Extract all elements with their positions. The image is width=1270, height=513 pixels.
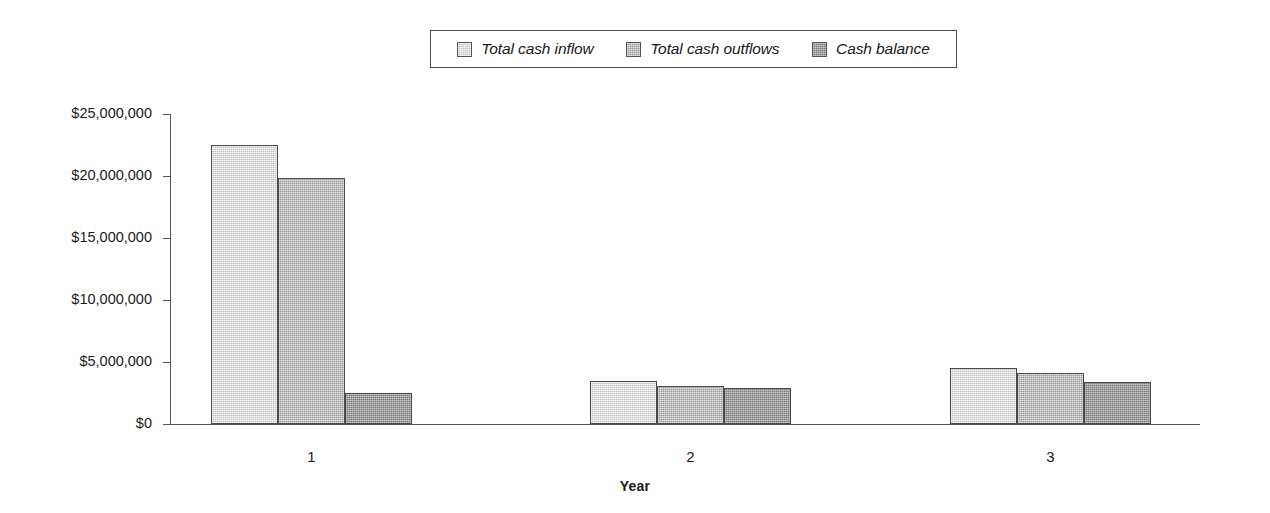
bar-1-series-0 xyxy=(211,145,278,424)
bar-3-series-0 xyxy=(950,368,1017,424)
chart-legend: Total cash inflow Total cash outflows Ca… xyxy=(430,30,957,68)
y-axis-tick-label: $20,000,000 xyxy=(71,167,152,183)
bar-2-series-2 xyxy=(724,388,791,424)
y-axis-tick: $25,000,000 xyxy=(163,114,170,115)
legend-swatch-icon xyxy=(626,42,641,57)
x-axis-line xyxy=(170,424,1200,425)
y-axis-tick-label: $10,000,000 xyxy=(71,291,152,307)
bar-3-series-2 xyxy=(1084,382,1151,424)
bar-chart: Total cash inflow Total cash outflows Ca… xyxy=(0,0,1270,513)
legend-item-total-cash-inflow: Total cash inflow xyxy=(457,40,593,58)
bar-1-series-2 xyxy=(345,393,412,424)
legend-label: Total cash outflows xyxy=(650,40,779,58)
legend-swatch-icon xyxy=(812,42,827,57)
bar-3-series-1 xyxy=(1017,373,1084,424)
bar-1-series-1 xyxy=(278,178,345,424)
x-axis-category-label: 2 xyxy=(686,448,694,465)
y-axis-tick-label: $25,000,000 xyxy=(71,105,152,121)
y-axis-tick: $10,000,000 xyxy=(163,300,170,301)
y-axis-tick: $15,000,000 xyxy=(163,238,170,239)
x-axis-category-label: 3 xyxy=(1046,448,1054,465)
bar-2-series-0 xyxy=(590,381,657,424)
y-axis-tick-label: $0 xyxy=(136,415,152,431)
x-axis-category-label: 1 xyxy=(307,448,315,465)
legend-item-cash-balance: Cash balance xyxy=(812,40,930,58)
x-axis-title: Year xyxy=(0,478,1270,494)
y-axis-line xyxy=(170,114,171,425)
legend-swatch-icon xyxy=(457,42,472,57)
legend-label: Total cash inflow xyxy=(481,40,593,58)
legend-label: Cash balance xyxy=(836,40,930,58)
y-axis-tick: $20,000,000 xyxy=(163,176,170,177)
y-axis-tick: $0 xyxy=(163,424,170,425)
y-axis-tick-label: $5,000,000 xyxy=(79,353,152,369)
y-axis-tick-label: $15,000,000 xyxy=(71,229,152,245)
plot-area: $25,000,000$20,000,000$15,000,000$10,000… xyxy=(170,114,1200,424)
legend-item-total-cash-outflows: Total cash outflows xyxy=(626,40,779,58)
bar-2-series-1 xyxy=(657,386,724,424)
y-axis-tick: $5,000,000 xyxy=(163,362,170,363)
